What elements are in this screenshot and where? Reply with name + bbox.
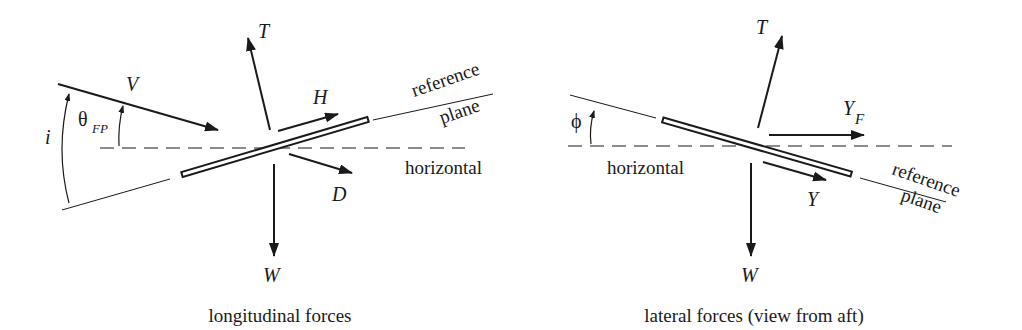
force-diagram-canvas: V T H D W i θ FP reference plane horizon…: [0, 0, 1022, 330]
flight-path-angle-arc: [119, 106, 123, 146]
reference-plane-line-left-lateral: [570, 95, 656, 118]
lateral-diagram: T Y F Y W ϕ horizontal reference plane l…: [568, 16, 963, 327]
label-W-lateral: W: [741, 264, 760, 286]
label-i: i: [45, 126, 51, 148]
reference-plane-line-left: [62, 179, 170, 210]
label-plane: plane: [436, 95, 482, 128]
label-H: H: [312, 86, 329, 108]
label-W: W: [263, 264, 282, 286]
label-D: D: [331, 183, 347, 205]
thrust-arrow: [248, 38, 270, 130]
caption-lateral: lateral forces (view from aft): [644, 305, 863, 327]
incidence-angle-arc: [62, 94, 69, 203]
label-T-lateral: T: [756, 16, 769, 38]
label-Y: Y: [807, 188, 820, 210]
label-horizontal: horizontal: [405, 157, 482, 178]
label-horizontal-lateral: horizontal: [607, 157, 684, 178]
label-T: T: [258, 20, 271, 42]
label-theta-subscript: FP: [91, 121, 108, 136]
label-YF-subscript: F: [854, 111, 865, 127]
drag-arrow: [289, 154, 352, 173]
thrust-arrow-lateral: [758, 36, 782, 128]
rotor-disk-plate-lateral: [662, 118, 852, 177]
longitudinal-diagram: V T H D W i θ FP reference plane horizon…: [45, 20, 493, 326]
label-theta: θ: [78, 108, 88, 130]
label-phi: ϕ: [571, 110, 582, 133]
label-V: V: [126, 73, 141, 95]
caption-longitudinal: longitudinal forces: [209, 305, 352, 326]
label-reference: reference: [408, 58, 482, 101]
roll-angle-arc: [590, 111, 594, 144]
